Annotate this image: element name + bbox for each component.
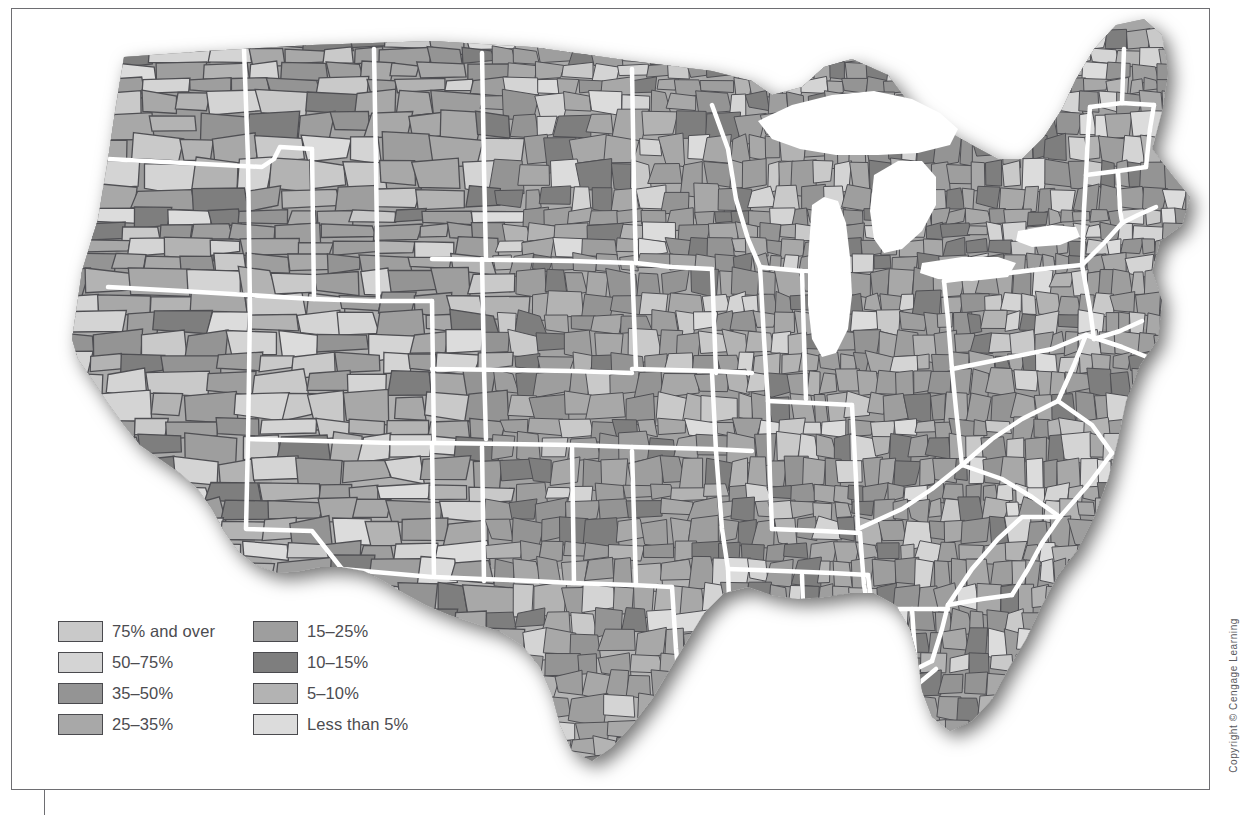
county-polygon xyxy=(888,269,915,298)
county-polygon xyxy=(39,500,87,522)
county-polygon xyxy=(80,500,138,523)
legend-label: 15–25% xyxy=(307,622,368,641)
county-polygon xyxy=(1161,369,1177,397)
county-polygon xyxy=(127,518,191,548)
county-polygon xyxy=(1154,238,1174,261)
county-polygon xyxy=(216,418,259,436)
county-polygon xyxy=(582,754,612,782)
county-polygon xyxy=(500,459,534,481)
county-polygon xyxy=(126,581,188,617)
county-polygon xyxy=(702,720,728,737)
county-polygon xyxy=(644,544,674,558)
county-polygon xyxy=(1132,696,1152,724)
county-polygon xyxy=(172,777,236,789)
county-polygon xyxy=(1171,433,1193,463)
county-polygon xyxy=(40,313,72,334)
county-polygon xyxy=(457,668,497,698)
county-polygon xyxy=(251,456,299,480)
county-polygon xyxy=(1115,778,1136,789)
county-polygon xyxy=(41,419,98,433)
county-polygon xyxy=(184,583,224,610)
county-polygon xyxy=(642,111,678,135)
county-polygon xyxy=(938,736,961,755)
county-polygon xyxy=(1034,653,1060,677)
county-polygon xyxy=(335,352,380,373)
county-polygon xyxy=(1204,419,1209,438)
legend-label: 5–10% xyxy=(307,684,359,703)
county-polygon xyxy=(1042,723,1064,740)
county-polygon xyxy=(871,269,890,297)
county-polygon xyxy=(390,63,419,77)
county-polygon xyxy=(356,739,408,761)
county-polygon xyxy=(985,47,1009,64)
county-polygon xyxy=(1186,223,1204,239)
county-polygon xyxy=(927,755,953,778)
county-polygon xyxy=(207,90,262,115)
county-polygon xyxy=(166,540,208,564)
county-polygon xyxy=(767,609,790,637)
county-polygon xyxy=(1188,671,1209,697)
county-polygon xyxy=(148,46,211,63)
county-polygon xyxy=(845,627,872,654)
county-polygon xyxy=(617,209,644,224)
county-polygon xyxy=(149,116,196,131)
county-polygon xyxy=(715,212,734,223)
county-polygon xyxy=(721,582,749,612)
county-polygon xyxy=(1203,239,1209,253)
county-polygon xyxy=(509,499,537,519)
county-polygon xyxy=(979,781,1002,789)
county-polygon xyxy=(42,92,91,116)
county-polygon xyxy=(848,780,868,789)
county-polygon xyxy=(1043,610,1060,632)
county-polygon xyxy=(789,655,804,679)
county-polygon xyxy=(731,751,755,773)
county-polygon xyxy=(373,224,422,241)
county-polygon xyxy=(42,116,101,137)
county-polygon xyxy=(1001,776,1022,789)
county-polygon xyxy=(616,737,649,755)
county-polygon xyxy=(675,752,714,787)
county-polygon xyxy=(1110,696,1134,720)
county-polygon xyxy=(1045,586,1070,608)
county-polygon xyxy=(966,239,988,254)
county-polygon xyxy=(850,737,865,760)
county-polygon xyxy=(842,185,872,212)
county-polygon xyxy=(127,484,164,500)
county-polygon xyxy=(98,752,149,778)
county-polygon xyxy=(966,50,984,69)
county-polygon xyxy=(592,188,612,213)
legend-label: Less than 5% xyxy=(307,715,408,734)
county-polygon xyxy=(821,420,846,438)
county-polygon xyxy=(268,501,323,519)
county-polygon xyxy=(1137,777,1155,789)
county-polygon xyxy=(1176,370,1188,395)
county-polygon xyxy=(674,671,708,696)
county-polygon xyxy=(1206,393,1209,418)
county-polygon xyxy=(1022,293,1036,314)
county-polygon xyxy=(1196,187,1209,212)
county-polygon xyxy=(899,738,916,757)
county-polygon xyxy=(395,397,427,421)
county-polygon xyxy=(791,63,816,78)
county-polygon xyxy=(988,240,1012,254)
county-polygon xyxy=(1072,212,1090,222)
legend-swatch xyxy=(253,621,298,642)
county-polygon xyxy=(1177,694,1198,730)
county-polygon xyxy=(622,608,648,632)
county-polygon xyxy=(91,222,125,240)
county-polygon xyxy=(846,671,868,698)
county-polygon xyxy=(803,457,826,485)
county-polygon xyxy=(996,94,1017,118)
county-polygon xyxy=(1202,50,1209,61)
county-polygon xyxy=(828,655,843,672)
county-polygon xyxy=(896,673,921,697)
county-polygon xyxy=(869,629,892,655)
county-polygon xyxy=(640,720,674,742)
legend-swatch xyxy=(253,714,298,735)
county-polygon xyxy=(542,438,568,457)
county-polygon xyxy=(124,558,166,588)
county-polygon xyxy=(43,80,99,99)
county-polygon xyxy=(417,62,466,78)
county-polygon xyxy=(1041,64,1062,83)
county-polygon xyxy=(321,224,376,238)
